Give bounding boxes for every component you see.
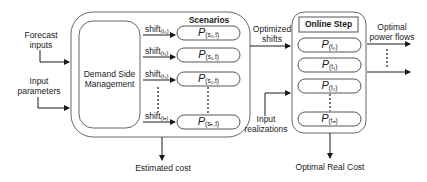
input-parameters-line1: Input	[14, 76, 64, 86]
scenarios-title: Scenarios	[185, 15, 233, 25]
online-p-2: P(t₂)	[298, 79, 361, 94]
shift-label-n: shift(tₙ)	[145, 111, 168, 123]
optimal-real-cost-label: Optimal Real Cost	[285, 162, 375, 172]
optimized-shifts-line1: Optimized	[252, 24, 292, 34]
dsm-label: Demand Side Management	[79, 69, 140, 89]
forecast-inputs-line2: inputs	[20, 40, 62, 50]
estimated-cost-label: Estimated cost	[118, 163, 208, 173]
optimal-power-flows-line2: power flows	[367, 32, 417, 42]
input-realizations-arrow	[265, 93, 290, 116]
optimal-power-flows-label: Optimal power flows	[367, 22, 417, 42]
shift-label-2: shift(t₂)	[145, 69, 169, 81]
input-realizations-line1: Input	[242, 114, 290, 124]
online-p-0: P(t₀)	[298, 38, 361, 53]
scenario-p-1: P(s₁,t)	[177, 48, 240, 63]
input-realizations-label: Input realizations	[242, 114, 290, 134]
dsm-label-line1: Demand Side	[79, 69, 140, 79]
input-parameters-label: Input parameters	[14, 76, 64, 96]
forecast-inputs-label: Forecast inputs	[20, 30, 62, 50]
scenario-p-n: P(sₙ,t)	[177, 115, 240, 130]
input-parameters-line2: parameters	[14, 86, 64, 96]
online-p-1: P(t₁)	[298, 58, 361, 73]
optimized-shifts-line2: shifts	[252, 34, 292, 44]
optimal-power-flows-line1: Optimal	[367, 22, 417, 32]
input-parameters-arrow	[38, 97, 69, 108]
optimized-shifts-label: Optimized shifts	[252, 24, 292, 44]
dsm-label-line2: Management	[79, 79, 140, 89]
scenario-p-2: P(s₂,t)	[177, 72, 240, 87]
input-realizations-line2: realizations	[242, 124, 290, 134]
shift-label-1: shift(t₁)	[145, 46, 168, 58]
online-step-title: Online Step	[299, 19, 358, 29]
shift-label-0: shift(t₀)	[145, 24, 169, 36]
online-p-n: P(tₙ)	[298, 112, 361, 127]
forecast-inputs-arrow	[40, 50, 69, 62]
scenario-p-0: P(s₀,t)	[177, 26, 240, 41]
forecast-inputs-line1: Forecast	[20, 30, 62, 40]
